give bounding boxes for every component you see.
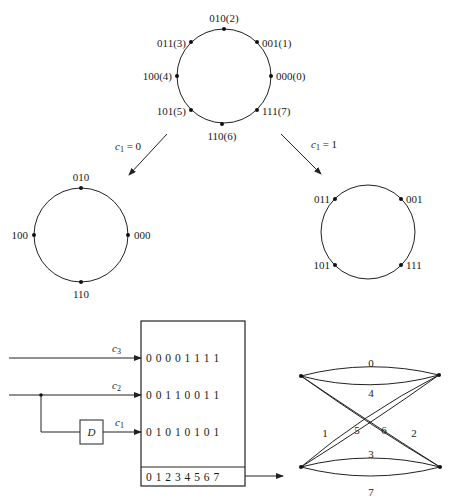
trellis-edge-4: [301, 375, 439, 385]
delay-feed-line: [41, 395, 80, 432]
label-point-4: 100(4): [143, 70, 173, 83]
right-label-tl: 011: [314, 193, 330, 205]
delay-label: D: [87, 426, 96, 438]
input-label-c1: c1: [115, 416, 124, 430]
trellis-label-1: 1: [322, 427, 328, 439]
trellis: 0 4 1 5 6 2 3 7: [299, 357, 442, 498]
trellis-label-0: 0: [368, 357, 374, 369]
left-constellation: 010 000 110 100: [12, 171, 152, 300]
trellis-label-5: 5: [354, 424, 360, 436]
mapper-box: [141, 321, 245, 486]
point-5: [189, 108, 193, 112]
label-point-2: 010(2): [209, 12, 239, 25]
left-point-bottom: [79, 280, 83, 284]
branch-right: c1 = 1: [281, 134, 337, 174]
bits-row-c1: 0 1 0 1 0 1 0 1: [146, 426, 220, 438]
point-3: [189, 40, 193, 44]
point-2: [222, 27, 226, 31]
left-label-top: 010: [73, 171, 90, 183]
trellis-edge-7: [301, 467, 440, 476]
trellis-label-6: 6: [381, 424, 387, 436]
diagram-canvas: 000(0) 001(1) 010(2) 011(3) 100(4) 101(5…: [0, 0, 453, 498]
point-7: [255, 108, 259, 112]
right-label-br: 111: [406, 259, 422, 271]
trellis-label-7: 7: [368, 486, 374, 498]
left-label-right: 000: [134, 229, 151, 241]
right-point-tl: [333, 197, 337, 201]
encoder: c3 0 0 0 0 1 1 1 1 c2 0 0 1 1 0 0 1 1 D …: [9, 321, 283, 486]
right-point-br: [399, 263, 403, 267]
bits-row-c2: 0 0 1 1 0 0 1 1: [146, 389, 220, 401]
right-constellation: 011 001 111 101: [314, 185, 423, 279]
point-1: [255, 40, 259, 44]
label-point-1: 001(1): [262, 37, 292, 50]
label-point-3: 011(3): [157, 37, 186, 50]
label-point-7: 111(7): [262, 105, 291, 118]
top-constellation: 000(0) 001(1) 010(2) 011(3) 100(4) 101(5…: [143, 12, 306, 143]
input-label-c2: c2: [112, 379, 121, 393]
trellis-node-top-left: [299, 374, 303, 378]
point-6: [220, 122, 224, 126]
bits-row-c3: 0 0 0 0 1 1 1 1: [146, 352, 220, 364]
left-label-bottom: 110: [73, 288, 90, 300]
input-label-c3: c3: [112, 342, 121, 356]
label-point-5: 101(5): [157, 105, 187, 118]
point-4: [175, 74, 179, 78]
right-point-bl: [333, 263, 337, 267]
left-ring-circle: [34, 188, 128, 282]
left-point-left: [32, 233, 36, 237]
trellis-node-bottom-left: [299, 465, 303, 469]
trellis-node-top-right: [437, 373, 441, 377]
right-label-tr: 001: [406, 193, 423, 205]
left-point-top: [79, 186, 83, 190]
branch-right-label: c1 = 1: [311, 138, 337, 152]
trellis-label-3: 3: [368, 448, 374, 460]
right-point-tr: [399, 197, 403, 201]
trellis-label-4: 4: [368, 387, 374, 399]
point-0: [269, 74, 273, 78]
branch-left-label: c1 = 0: [115, 140, 142, 154]
label-point-0: 000(0): [276, 70, 306, 83]
trellis-label-2: 2: [411, 427, 417, 439]
output-index-row: 0 1 2 3 4 5 6 7: [146, 471, 220, 483]
trellis-node-bottom-right: [438, 465, 442, 469]
label-point-6: 110(6): [208, 130, 237, 143]
branch-left: c1 = 0: [115, 134, 167, 175]
left-label-left: 100: [12, 229, 29, 241]
left-point-right: [126, 233, 130, 237]
right-label-bl: 101: [314, 259, 331, 271]
